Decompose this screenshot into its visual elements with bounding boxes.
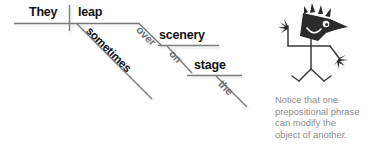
caption-line-2: prepositional phrase xyxy=(275,106,359,118)
caption-line-1: Notice that one xyxy=(275,94,359,106)
mascot-leg-right xyxy=(311,69,324,81)
mascot-head-icon xyxy=(300,3,348,41)
mascot-hand-left-icon xyxy=(278,19,288,33)
caption-block: Notice that one prepositional phrase can… xyxy=(275,94,359,140)
mascot-leg-right-foot xyxy=(324,76,331,81)
mascot-leg-left xyxy=(299,69,311,81)
caption-line-3: can modify the xyxy=(275,117,359,129)
mascot-hand-right-icon xyxy=(333,55,348,69)
caption-line-4: object of another. xyxy=(275,129,359,141)
mascot-arm-right-down xyxy=(330,46,339,58)
sentence-diagram-figure: They leap sometimes over scenery on stag… xyxy=(0,0,383,148)
mascot-leg-left-foot xyxy=(292,76,299,81)
